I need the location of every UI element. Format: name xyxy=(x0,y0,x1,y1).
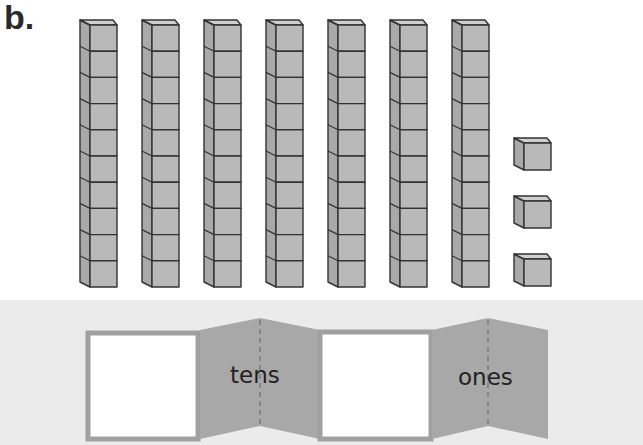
tens-rod-cell xyxy=(462,130,489,156)
tens-rod-cell xyxy=(90,25,117,51)
tens-rod-cell xyxy=(462,77,489,103)
tens-label: tens xyxy=(230,362,280,388)
tens-rod-cell xyxy=(276,77,303,103)
tens-rod-cell xyxy=(152,51,179,77)
tens-rod-cell xyxy=(276,130,303,156)
ones-answer-box[interactable] xyxy=(320,332,431,439)
tens-rod-cell xyxy=(214,77,241,103)
tens-rod-cell xyxy=(152,130,179,156)
tens-rod-cell xyxy=(152,182,179,208)
tens-rod-cell xyxy=(400,208,427,234)
tens-rod-cell xyxy=(400,130,427,156)
tens-rod-cell xyxy=(338,235,365,261)
tens-rod-cell xyxy=(400,51,427,77)
tens-rod-cell xyxy=(276,25,303,51)
tens-rod-cell xyxy=(400,104,427,130)
tens-rod-cell xyxy=(338,77,365,103)
tens-rod-cell xyxy=(152,77,179,103)
tens-rod-cell xyxy=(276,156,303,182)
tens-rod-cell xyxy=(462,182,489,208)
tens-rod-cell xyxy=(276,104,303,130)
tens-rod-cell xyxy=(214,25,241,51)
tens-rod-cell xyxy=(152,235,179,261)
tens-rod-cell xyxy=(338,51,365,77)
tens-rod-cell xyxy=(214,51,241,77)
tens-rod-cell xyxy=(276,261,303,287)
tens-rod-cell xyxy=(338,130,365,156)
tens-rod-cell xyxy=(462,261,489,287)
tens-rod-cell xyxy=(276,51,303,77)
tens-rod-cell xyxy=(338,156,365,182)
tens-rod-cell xyxy=(214,156,241,182)
tens-rod-cell xyxy=(152,25,179,51)
tens-rod-cell xyxy=(90,156,117,182)
tens-rod-cell xyxy=(462,235,489,261)
tens-rod-cell xyxy=(400,156,427,182)
tens-rod-cell xyxy=(276,182,303,208)
tens-rod-cell xyxy=(338,208,365,234)
tens-rod-cell xyxy=(400,182,427,208)
tens-rod-cell xyxy=(276,208,303,234)
tens-rod-cell xyxy=(90,130,117,156)
ones-label: ones xyxy=(458,364,513,390)
tens-rod-cell xyxy=(338,261,365,287)
tens-rod-cell xyxy=(152,261,179,287)
tens-rod-cell xyxy=(214,235,241,261)
tens-rod-cell xyxy=(462,25,489,51)
tens-rod-cell xyxy=(90,104,117,130)
tens-rod-cell xyxy=(152,156,179,182)
tens-rod-cell xyxy=(90,208,117,234)
tens-rod-cell xyxy=(462,156,489,182)
tens-rod-cell xyxy=(90,235,117,261)
tens-rod-cell xyxy=(214,182,241,208)
tens-rod-cell xyxy=(400,25,427,51)
tens-rod-cell xyxy=(152,104,179,130)
tens-rod-cell xyxy=(462,51,489,77)
tens-rod-cell xyxy=(214,261,241,287)
base-ten-blocks xyxy=(0,0,643,300)
tens-rod-cell xyxy=(462,208,489,234)
tens-rod-cell xyxy=(90,261,117,287)
tens-rod-cell xyxy=(90,182,117,208)
tens-rod-cell xyxy=(338,182,365,208)
tens-rod-cell xyxy=(400,77,427,103)
tens-rod-cell xyxy=(400,261,427,287)
tens-answer-box[interactable] xyxy=(88,333,198,439)
tens-rod-cell xyxy=(90,51,117,77)
tens-rod-cell xyxy=(462,104,489,130)
ones-cube xyxy=(524,143,551,170)
tens-rod-cell xyxy=(214,104,241,130)
tens-rod-cell xyxy=(276,235,303,261)
ones-cube xyxy=(524,201,551,228)
tens-rod-cell xyxy=(90,77,117,103)
tens-rod-cell xyxy=(400,235,427,261)
tens-rod-cell xyxy=(152,208,179,234)
tens-rod-cell xyxy=(214,208,241,234)
tens-rod-cell xyxy=(214,130,241,156)
ones-cube xyxy=(524,259,551,286)
tens-rod-cell xyxy=(338,104,365,130)
tens-rod-cell xyxy=(338,25,365,51)
